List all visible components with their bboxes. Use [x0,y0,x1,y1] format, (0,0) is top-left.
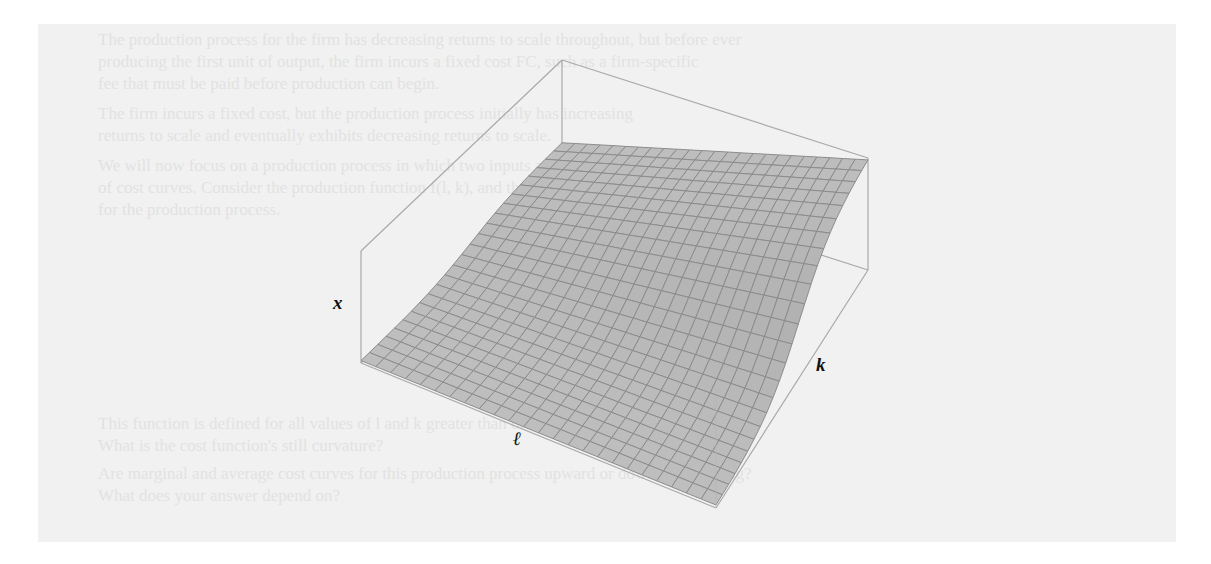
surface-plot [0,0,1211,564]
production-surface-mesh [361,143,868,505]
axis-label-x: x [333,292,343,314]
axis-label-l: ℓ [513,428,521,450]
axis-label-k: k [816,354,826,376]
